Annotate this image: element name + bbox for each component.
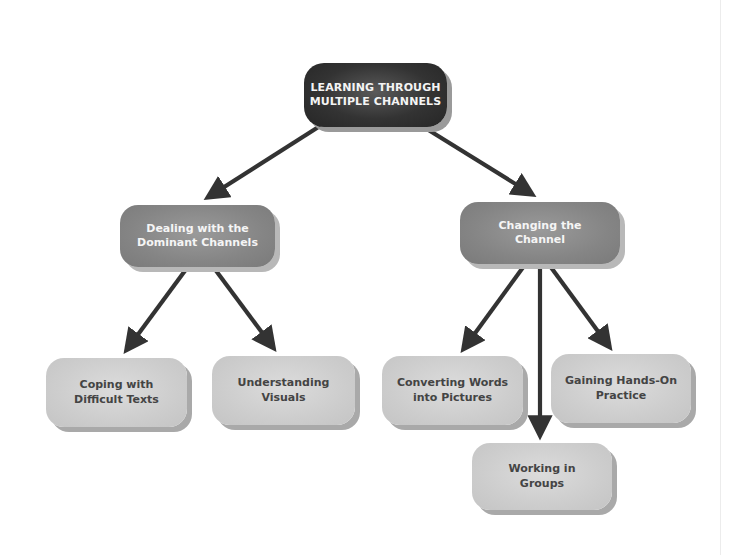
arrow-dealing-to-coping bbox=[128, 268, 187, 348]
root-node-line2: MULTIPLE CHANNELS bbox=[310, 95, 441, 109]
node-line2: Channel bbox=[499, 233, 582, 247]
arrow-root-to-dealing bbox=[210, 126, 320, 196]
node-line1: Changing the bbox=[499, 219, 582, 233]
arrow-changing-to-converting bbox=[465, 266, 524, 347]
root-node-learning-through-multiple-channels: LEARNING THROUGH MULTIPLE CHANNELS bbox=[304, 63, 447, 127]
node-coping-with-difficult-texts: Coping with Difficult Texts bbox=[46, 358, 187, 427]
root-node-line1: LEARNING THROUGH bbox=[310, 81, 441, 95]
node-line1: Coping with bbox=[74, 378, 159, 392]
node-line1: Working in bbox=[509, 462, 576, 476]
node-understanding-visuals: Understanding Visuals bbox=[212, 356, 355, 425]
node-changing-the-channel: Changing the Channel bbox=[460, 202, 620, 264]
node-working-in-groups: Working in Groups bbox=[472, 443, 612, 510]
node-line2: Visuals bbox=[238, 391, 330, 405]
arrow-root-to-changing bbox=[422, 126, 530, 193]
node-converting-words-into-pictures: Converting Words into Pictures bbox=[382, 356, 523, 425]
node-line1: Gaining Hands-On bbox=[565, 374, 677, 388]
node-gaining-hands-on-practice: Gaining Hands-On Practice bbox=[551, 354, 691, 423]
node-line2: into Pictures bbox=[397, 391, 508, 405]
node-line2: Practice bbox=[565, 389, 677, 403]
arrow-dealing-to-understanding bbox=[214, 268, 272, 346]
node-dealing-with-dominant-channels: Dealing with the Dominant Channels bbox=[120, 205, 275, 267]
node-line1: Dealing with the bbox=[137, 222, 258, 236]
arrow-changing-to-gaining bbox=[550, 266, 608, 345]
node-line1: Understanding bbox=[238, 376, 330, 390]
node-line2: Groups bbox=[509, 477, 576, 491]
node-line2: Dominant Channels bbox=[137, 236, 258, 250]
node-line1: Converting Words bbox=[397, 376, 508, 390]
node-line2: Difficult Texts bbox=[74, 393, 159, 407]
